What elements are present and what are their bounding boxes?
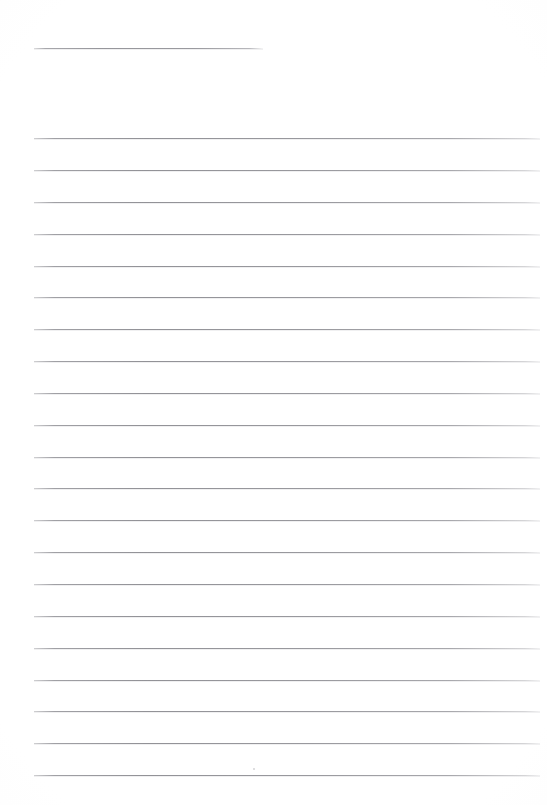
notepaper-page: [0, 0, 547, 805]
ruled-line: [34, 393, 540, 394]
ruled-line: [34, 138, 540, 139]
ruled-line: [34, 743, 540, 744]
ruled-line: [34, 329, 540, 330]
ruled-line: [34, 584, 540, 585]
ruled-line: [34, 552, 540, 553]
ruled-line: [34, 202, 540, 203]
ruled-line: [34, 648, 540, 649]
ruled-line: [34, 234, 540, 235]
ruled-line: [34, 425, 540, 426]
ruled-lines-layer: [0, 0, 547, 805]
ruled-line: [34, 680, 540, 681]
ruled-line: [34, 520, 540, 521]
header-rule: [34, 48, 263, 49]
ruled-line: [34, 616, 540, 617]
ruled-line: [34, 457, 540, 458]
scan-speck: [253, 768, 255, 770]
ruled-line: [34, 361, 540, 362]
ruled-line: [34, 266, 540, 267]
ruled-line: [34, 488, 540, 489]
ruled-line: [34, 297, 540, 298]
ruled-line: [34, 711, 540, 712]
ruled-line: [34, 170, 540, 171]
ruled-line: [34, 775, 540, 776]
